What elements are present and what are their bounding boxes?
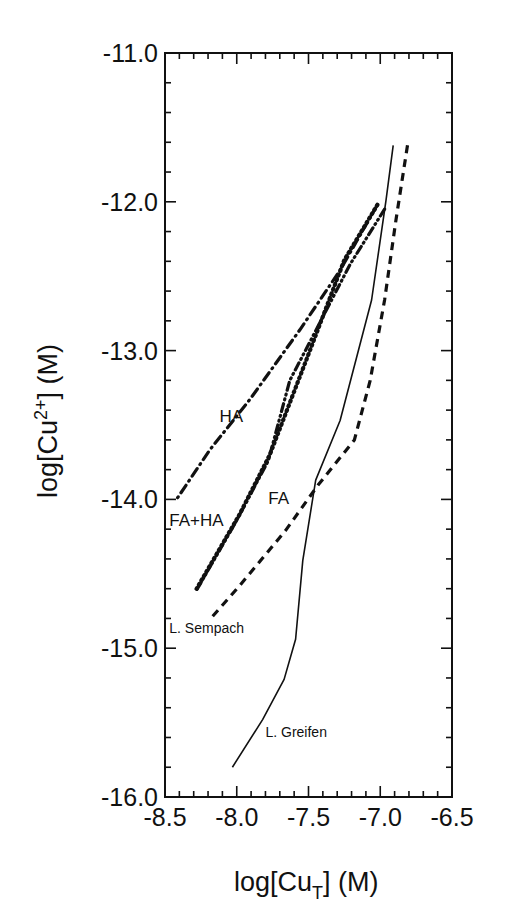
series-group (177, 145, 408, 767)
x-tick-label: -7.0 (359, 803, 402, 831)
chart: -8.5-8.0-7.5-7.0-6.5-11.0-12.0-13.0-14.0… (0, 0, 509, 922)
annotation-fa: FA (268, 489, 289, 508)
axis-ticks (165, 53, 452, 797)
y-tick-label: -12.0 (101, 188, 158, 216)
x-tick-label: -6.5 (430, 803, 473, 831)
y-tick-label: -15.0 (101, 634, 158, 662)
series-ha (177, 205, 378, 500)
series-l-sempach (210, 145, 408, 620)
annotation-l-sempach: L. Sempach (169, 620, 244, 636)
series-l-greifen (232, 145, 393, 767)
y-tick-label: -13.0 (101, 337, 158, 365)
annotation-l-greifen: L. Greifen (265, 724, 326, 740)
plot-frame (165, 53, 452, 797)
tick-labels: -8.5-8.0-7.5-7.0-6.5-11.0-12.0-13.0-14.0… (101, 39, 474, 831)
x-axis-title: log[CuT] (M) (234, 867, 379, 903)
x-tick-label: -8.0 (215, 803, 258, 831)
annotation-ha: HA (220, 407, 244, 426)
x-tick-label: -7.5 (287, 803, 330, 831)
annotations: HAFAFA+HAL. SempachL. Greifen (169, 407, 327, 740)
annotation-fa-ha: FA+HA (169, 511, 224, 530)
y-tick-label: -14.0 (101, 485, 158, 513)
y-tick-label: -16.0 (101, 783, 158, 811)
y-tick-label: -11.0 (103, 39, 158, 67)
y-axis-title: log[Cu2+] (M) (31, 344, 63, 498)
